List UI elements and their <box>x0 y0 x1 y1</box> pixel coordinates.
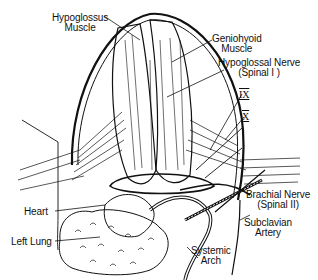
label-left-lung: Left Lung <box>11 237 52 247</box>
label-subclavian-artery: Subclavian Artery <box>244 218 292 238</box>
label-line: Artery <box>244 228 292 238</box>
label-systemic-arch: Systemic Arch <box>191 246 231 266</box>
label-heart: Heart <box>24 207 48 217</box>
label-line: (Spinal I ) <box>218 68 300 78</box>
label-nerve-ix: IX <box>239 90 249 100</box>
anatomy-diagram: Hypoglossus Muscle Geniohyoid Muscle Hyp… <box>0 0 318 280</box>
label-line: Arch <box>191 256 231 266</box>
label-line: (Spinal II) <box>246 200 310 210</box>
label-line: Muscle <box>52 23 108 33</box>
label-hypoglossus-muscle: Hypoglossus Muscle <box>52 13 108 33</box>
label-nerve-x: X <box>242 112 249 122</box>
label-geniohyoid-muscle: Geniohyoid Muscle <box>212 34 262 54</box>
label-hypoglossal-nerve: Hypoglossal Nerve (Spinal I ) <box>218 58 300 78</box>
label-brachial-nerve: Brachial Nerve (Spinal II) <box>246 190 310 210</box>
label-line: Muscle <box>212 44 262 54</box>
